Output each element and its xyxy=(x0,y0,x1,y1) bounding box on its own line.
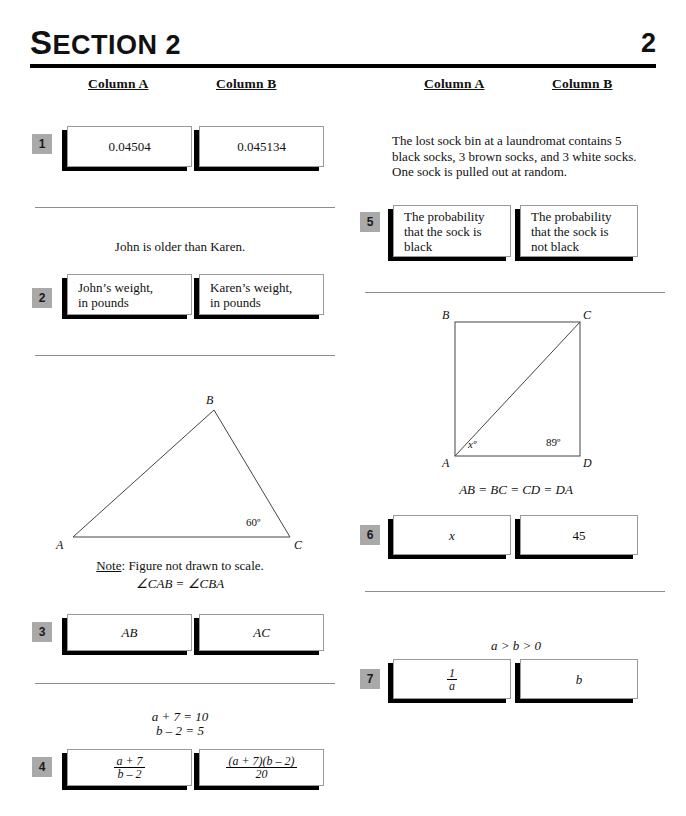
q5-column-b-line2: that the sock is xyxy=(531,224,609,239)
q3-column-b-box[interactable]: AC xyxy=(194,614,319,651)
section-title-rest: ECTION 2 xyxy=(53,30,182,60)
q6-given: AB = BC = CD = DA xyxy=(356,482,676,498)
question-number-badge: 5 xyxy=(360,212,380,232)
q1-column-b-value: 0.045134 xyxy=(237,139,286,154)
square-figure: B C A D xº 89º xyxy=(420,310,620,470)
question-number-badge: 1 xyxy=(32,134,52,154)
square-label-d: D xyxy=(583,456,592,471)
q3-column-a-value: AB xyxy=(122,625,138,640)
box-face: AC xyxy=(199,614,324,651)
question-number-badge: 3 xyxy=(32,622,52,642)
box-face: (a + 7)(b – 2) 20 xyxy=(199,749,324,786)
box-face: a + 7 b – 2 xyxy=(67,749,192,786)
q4-column-b-box[interactable]: (a + 7)(b – 2) 20 xyxy=(194,749,319,786)
box-face: x xyxy=(393,515,511,555)
note-text: : Figure not drawn to scale. xyxy=(122,558,264,573)
q5-column-a-line1: The probability xyxy=(404,209,485,224)
q3-given: ∠CAB = ∠CBA xyxy=(20,576,340,592)
question-number-badge: 6 xyxy=(360,525,380,545)
q5-stem-line1: The lost sock bin at a laundromat contai… xyxy=(392,133,622,148)
triangle-label-a: A xyxy=(56,538,63,553)
q7-column-a-denominator: a xyxy=(447,680,457,692)
q2-stem: John is older than Karen. xyxy=(20,239,340,255)
q7-given: a > b > 0 xyxy=(356,638,676,654)
question-number-badge: 4 xyxy=(32,757,52,777)
q5-column-a-line3: black xyxy=(404,239,432,254)
left-column-headers: Column A Column B xyxy=(20,76,340,98)
q6-column-b-value: 45 xyxy=(573,528,586,543)
q5-column-b-value: The probabilitythat the sock isnot black xyxy=(531,209,612,254)
divider-left-3 xyxy=(35,683,335,684)
right-column: Column A Column B xyxy=(356,76,676,98)
q4-column-b-denominator: 20 xyxy=(226,768,296,780)
q4-column-b-fraction: (a + 7)(b – 2) 20 xyxy=(226,755,296,780)
q6-column-a-value: x xyxy=(449,528,455,543)
q1-column-a-box[interactable]: 0.04504 xyxy=(62,126,187,167)
q7-column-a-fraction: 1 a xyxy=(447,667,457,692)
q1-column-b-box[interactable]: 0.045134 xyxy=(194,126,319,167)
q4-column-a-fraction: a + 7 b – 2 xyxy=(114,755,144,780)
q2-column-a-line2: in pounds xyxy=(78,295,129,310)
q3-note: Note: Figure not drawn to scale. xyxy=(20,558,340,574)
left-header-column-a: Column A xyxy=(88,76,149,92)
header-rule xyxy=(30,64,656,68)
q2-column-a-value: John’s weight,in pounds xyxy=(78,280,153,310)
q5-column-a-value: The probabilitythat the sock isblack xyxy=(404,209,485,254)
q2-column-b-box[interactable]: Karen’s weight,in pounds xyxy=(194,274,319,315)
box-face: 45 xyxy=(520,515,638,555)
question-number-badge: 7 xyxy=(360,669,380,689)
exam-page: SECTION 2 2 Column A Column B 1 0.04504 … xyxy=(0,0,686,816)
q5-column-a-box[interactable]: The probabilitythat the sock isblack xyxy=(388,205,506,257)
q1-column-a-value: 0.04504 xyxy=(108,139,150,154)
section-title: SECTION 2 xyxy=(30,28,181,60)
q4-given: a + 7 = 10 b – 2 = 5 xyxy=(20,710,340,738)
q4-column-a-box[interactable]: a + 7 b – 2 xyxy=(62,749,187,786)
left-header-column-b: Column B xyxy=(216,76,277,92)
divider-right-2 xyxy=(365,591,665,592)
divider-left-2 xyxy=(35,355,335,356)
right-header-column-a: Column A xyxy=(424,76,485,92)
triangle-angle-c: 60º xyxy=(246,516,260,528)
q3-column-b-value: AC xyxy=(253,625,270,640)
q7-column-a-box[interactable]: 1 a xyxy=(388,659,506,699)
left-column: Column A Column B xyxy=(20,76,340,98)
q2-column-a-box[interactable]: John’s weight,in pounds xyxy=(62,274,187,315)
q5-stem-line3: One sock is pulled out at random. xyxy=(392,164,567,179)
square-label-b: B xyxy=(442,308,449,323)
box-face: AB xyxy=(67,614,192,651)
triangle-figure: B A C 60º xyxy=(20,395,340,555)
q2-column-b-value: Karen’s weight,in pounds xyxy=(210,280,292,310)
box-face: The probabilitythat the sock isnot black xyxy=(520,205,638,257)
square-angle-x: xº xyxy=(468,438,476,450)
q4-column-a-denominator: b – 2 xyxy=(114,768,144,780)
q5-column-b-line1: The probability xyxy=(531,209,612,224)
q5-column-b-box[interactable]: The probabilitythat the sock isnot black xyxy=(515,205,633,257)
triangle-label-c: C xyxy=(294,538,302,553)
q4-given-line1: a + 7 = 10 xyxy=(152,709,209,724)
box-face: Karen’s weight,in pounds xyxy=(199,274,324,315)
square-label-a: A xyxy=(442,456,449,471)
square-angle-d: 89º xyxy=(546,436,560,448)
page-number: 2 xyxy=(641,28,656,58)
box-face: John’s weight,in pounds xyxy=(67,274,192,315)
q5-column-b-line3: not black xyxy=(531,239,579,254)
q2-column-a-line1: John’s weight, xyxy=(78,280,153,295)
divider-left-1 xyxy=(35,207,335,208)
q5-stem-line2: black socks, 3 brown socks, and 3 white … xyxy=(392,149,636,164)
square-label-c: C xyxy=(583,308,591,323)
q5-column-a-line2: that the sock is xyxy=(404,224,482,239)
q2-column-b-line1: Karen’s weight, xyxy=(210,280,292,295)
q4-given-line2: b – 2 = 5 xyxy=(156,723,204,738)
note-label: Note xyxy=(96,558,121,573)
q7-column-b-box[interactable]: b xyxy=(515,659,633,699)
box-face: 0.045134 xyxy=(199,126,324,167)
divider-right-1 xyxy=(365,292,665,293)
q5-stem: The lost sock bin at a laundromat contai… xyxy=(392,133,682,180)
q6-column-b-box[interactable]: 45 xyxy=(515,515,633,555)
box-face: 1 a xyxy=(393,659,511,699)
right-column-headers: Column A Column B xyxy=(356,76,676,98)
q7-column-b-value: b xyxy=(576,672,583,687)
section-title-initial: S xyxy=(30,24,53,61)
q3-column-a-box[interactable]: AB xyxy=(62,614,187,651)
q6-column-a-box[interactable]: x xyxy=(388,515,506,555)
